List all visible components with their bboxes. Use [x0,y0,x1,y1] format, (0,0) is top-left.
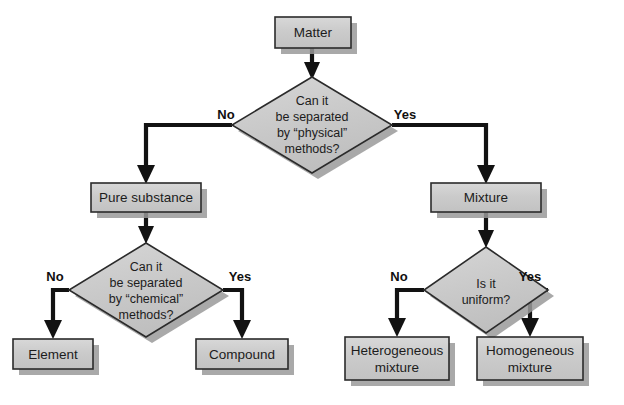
physical-question-line-3: by “physical” [277,126,347,140]
edge-chemical-yes-to-compound [223,290,251,339]
node-heterogeneous-mixture-line-1: Heterogeneous [351,343,444,358]
node-pure-substance[interactable]: Pure substance [91,183,207,218]
flowchart-canvas: Matter Can it be separated by “physical”… [0,0,624,405]
node-homogeneous-mixture-line-1: Homogeneous [486,343,574,358]
physical-question-line-4: methods? [285,142,340,156]
node-homogeneous-mixture[interactable]: Homogeneous mixture [477,337,589,386]
physical-question-line-2: be separated [276,110,349,124]
chemical-question-line-3: by “chemical” [109,292,183,306]
edge-chemical-no-to-element [44,290,69,339]
node-matter-label: Matter [294,25,333,40]
chemical-question-line-1: Can it [130,260,163,274]
edge-physical-no-to-pure-substance [137,125,232,184]
physical-question-line-1: Can it [296,94,329,108]
uniform-question-line-1: Is it [476,277,496,291]
branch-label-uniform-yes: Yes [519,269,541,284]
node-heterogeneous-mixture-line-2: mixture [375,360,419,375]
node-pure-substance-label: Pure substance [99,190,193,205]
node-compound[interactable]: Compound [196,339,294,375]
node-chemical-question[interactable]: Can it be separated by “chemical” method… [69,243,229,343]
node-mixture-label: Mixture [464,190,508,205]
node-heterogeneous-mixture[interactable]: Heterogeneous mixture [345,337,455,386]
branch-label-physical-yes: Yes [394,107,416,122]
edge-uniform-no-to-heterogeneous [388,290,424,337]
node-element-label: Element [28,347,78,362]
node-mixture[interactable]: Mixture [431,183,547,218]
edge-physical-yes-to-mixture [392,125,495,184]
node-physical-question[interactable]: Can it be separated by “physical” method… [232,77,398,179]
node-element[interactable]: Element [13,339,99,375]
chemical-question-line-4: methods? [119,308,174,322]
chemical-question-line-2: be separated [110,276,183,290]
node-homogeneous-mixture-line-2: mixture [508,360,552,375]
node-compound-label: Compound [209,347,275,362]
branch-label-chemical-no: No [46,269,63,284]
branch-label-chemical-yes: Yes [229,269,251,284]
branch-label-uniform-no: No [390,269,407,284]
flowchart-svg: Matter Can it be separated by “physical”… [0,0,624,405]
uniform-question-line-2: uniform? [462,293,511,307]
branch-label-physical-no: No [217,107,234,122]
node-matter[interactable]: Matter [275,17,357,54]
